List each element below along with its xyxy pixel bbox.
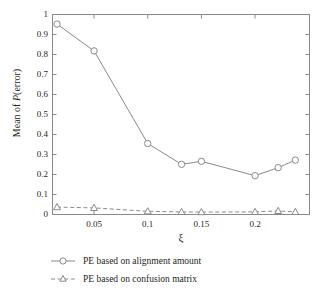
y-tick-label: 0.9: [10, 30, 48, 39]
data-point-marker: [292, 208, 299, 214]
y-tick-marks: [53, 15, 310, 215]
data-point-marker: [198, 158, 204, 164]
x-tick-label: 0.1: [128, 220, 168, 229]
x-tick-marks: [94, 15, 255, 215]
chart-legend: PE based on alignment amount PE based on…: [50, 252, 310, 288]
data-series-group: [54, 21, 299, 215]
legend-marker-triangle-icon: [50, 272, 76, 286]
x-tick-label: 0.15: [181, 220, 221, 229]
data-point-marker: [54, 21, 60, 27]
y-tick-label: 0.3: [10, 150, 48, 159]
y-tick-label: 0.6: [10, 90, 48, 99]
series-line: [57, 24, 295, 176]
legend-item-alignment-amount: PE based on alignment amount: [50, 252, 310, 270]
series-confusion-matrix: [54, 204, 299, 215]
data-point-marker: [178, 161, 184, 167]
data-point-marker: [145, 140, 151, 146]
data-point-marker: [275, 165, 281, 171]
y-tick-label: 0: [10, 210, 48, 219]
y-tick-label: 0.1: [10, 190, 48, 199]
y-tick-label: 0.8: [10, 50, 48, 59]
figure-chart: Mean of P(error) 00.10.20.30.40.50.60.70…: [0, 0, 323, 295]
legend-label-alignment-amount: PE based on alignment amount: [83, 256, 201, 266]
data-point-marker: [252, 173, 258, 179]
legend-item-confusion-matrix: PE based on confusion matrix: [50, 270, 310, 288]
y-tick-label: 0.2: [10, 170, 48, 179]
y-tick-label: 0.5: [10, 110, 48, 119]
data-point-marker: [275, 207, 282, 213]
x-tick-label: 0.2: [235, 220, 275, 229]
x-tick-label: 0.05: [74, 220, 114, 229]
plot-frame: [53, 15, 310, 215]
plot-area: [0, 0, 323, 295]
data-point-marker: [292, 157, 298, 163]
y-tick-label: 0.7: [10, 70, 48, 79]
data-point-marker: [54, 204, 61, 210]
data-point-marker: [91, 48, 97, 54]
x-axis-label: ξ: [52, 232, 310, 243]
series-alignment-amount: [54, 21, 299, 179]
legend-label-confusion-matrix: PE based on confusion matrix: [83, 274, 197, 284]
y-tick-label: 1: [10, 10, 48, 19]
y-tick-label: 0.4: [10, 130, 48, 139]
legend-marker-circle-icon: [50, 254, 76, 268]
